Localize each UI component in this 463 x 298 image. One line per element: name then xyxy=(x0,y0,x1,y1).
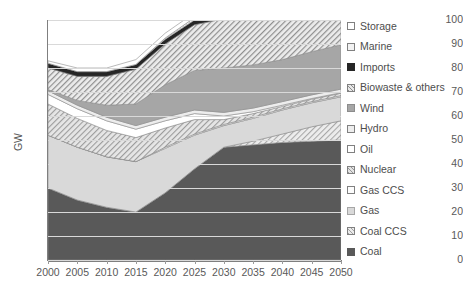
legend-swatch-coalccs-icon xyxy=(347,227,355,235)
legend-label: Biowaste & others xyxy=(360,82,445,93)
legend-label: Nuclear xyxy=(360,164,396,175)
legend-label: Imports xyxy=(360,62,395,73)
legend-item-gas-ccs[interactable]: Gas CCS xyxy=(347,180,463,201)
gridline-100 xyxy=(48,20,341,21)
x-tick-mark-2020 xyxy=(165,261,166,264)
gridline-40 xyxy=(48,164,341,165)
legend-swatch-gas-icon xyxy=(347,207,355,215)
x-tick-mark-2000 xyxy=(48,261,49,264)
stacked-area-chart: 0102030405060708090100 20002005201020152… xyxy=(0,0,463,298)
legend-label: Coal CCS xyxy=(360,226,407,237)
x-tick-mark-2005 xyxy=(77,261,78,264)
gridline-90 xyxy=(48,44,341,45)
legend-label: Coal xyxy=(360,246,382,257)
x-tick-label-2050: 2050 xyxy=(321,266,361,278)
legend-item-oil[interactable]: Oil xyxy=(347,139,463,160)
gridline-70 xyxy=(48,92,341,93)
legend-label: Gas xyxy=(360,205,379,216)
legend-label: Hydro xyxy=(360,123,388,134)
legend-item-gas[interactable]: Gas xyxy=(347,201,463,222)
legend-item-coal[interactable]: Coal xyxy=(347,242,463,263)
gridline-80 xyxy=(48,68,341,69)
legend-swatch-hydro-icon xyxy=(347,125,355,133)
legend-label: Marine xyxy=(360,41,392,52)
legend-swatch-biowaste-icon xyxy=(347,84,355,92)
chart-legend: StorageMarineImportsBiowaste & othersWin… xyxy=(347,16,463,262)
x-tick-mark-2030 xyxy=(224,261,225,264)
x-tick-mark-2025 xyxy=(195,261,196,264)
legend-item-marine[interactable]: Marine xyxy=(347,37,463,58)
x-tick-mark-2015 xyxy=(136,261,137,264)
legend-swatch-coal-icon xyxy=(347,248,355,256)
gridline-60 xyxy=(48,116,341,117)
legend-swatch-wind-icon xyxy=(347,104,355,112)
x-tick-mark-2010 xyxy=(107,261,108,264)
x-tick-mark-2040 xyxy=(282,261,283,264)
legend-swatch-storage-icon xyxy=(347,22,355,30)
gridline-20 xyxy=(48,212,341,213)
gridline-30 xyxy=(48,188,341,189)
x-tick-mark-2035 xyxy=(253,261,254,264)
legend-label: Storage xyxy=(360,21,397,32)
gridline-10 xyxy=(48,236,341,237)
legend-label: Oil xyxy=(360,144,373,155)
legend-swatch-gasccs-icon xyxy=(347,186,355,194)
gridline-50 xyxy=(48,140,341,141)
legend-swatch-nuclear-icon xyxy=(347,166,355,174)
legend-item-nuclear[interactable]: Nuclear xyxy=(347,160,463,181)
legend-item-coal-ccs[interactable]: Coal CCS xyxy=(347,221,463,242)
legend-item-biowaste-others[interactable]: Biowaste & others xyxy=(347,78,463,99)
legend-item-hydro[interactable]: Hydro xyxy=(347,119,463,140)
legend-swatch-marine-icon xyxy=(347,43,355,51)
legend-item-storage[interactable]: Storage xyxy=(347,16,463,37)
x-tick-mark-2050 xyxy=(341,261,342,264)
legend-item-imports[interactable]: Imports xyxy=(347,57,463,78)
legend-label: Gas CCS xyxy=(360,185,404,196)
x-tick-mark-2045 xyxy=(312,261,313,264)
legend-swatch-oil-icon xyxy=(347,145,355,153)
legend-swatch-imports-icon xyxy=(347,63,355,71)
y-axis-title: GW xyxy=(12,122,24,162)
legend-label: Wind xyxy=(360,103,384,114)
legend-item-wind[interactable]: Wind xyxy=(347,98,463,119)
